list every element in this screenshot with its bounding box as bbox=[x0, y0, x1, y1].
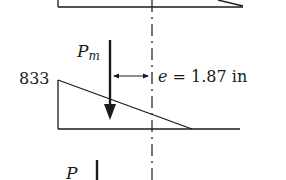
load-symbol: P bbox=[77, 41, 88, 61]
bottom-load-label: P bbox=[66, 165, 77, 180]
stress-value-label: 833 bbox=[19, 71, 50, 87]
stress-triangle bbox=[58, 80, 240, 129]
eccentricity-value: = 1.87 in bbox=[167, 67, 247, 86]
eccentricity-dimension bbox=[113, 74, 149, 79]
load-label: Pm bbox=[77, 43, 100, 62]
diagram-canvas: 833 Pm e = 1.87 in P bbox=[0, 0, 286, 180]
eccentricity-label: e = 1.87 in bbox=[158, 69, 247, 85]
diagram-lines bbox=[0, 0, 286, 180]
load-arrow bbox=[104, 40, 116, 120]
top-stress-block bbox=[58, 0, 243, 7]
load-subscript: m bbox=[88, 49, 99, 63]
